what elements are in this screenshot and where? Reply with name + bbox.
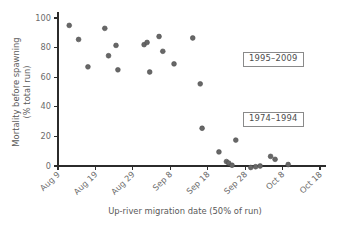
y-tick-label: 80 [41, 42, 51, 52]
data-point [230, 163, 235, 168]
data-point [190, 36, 195, 41]
data-point [147, 70, 152, 75]
x-axis-title: Up-river migration date (50% of run) [108, 206, 262, 216]
data-point [253, 164, 258, 169]
y-tick-label: 100 [35, 13, 51, 23]
y-tick-label: 20 [41, 131, 51, 141]
data-point [102, 26, 107, 31]
x-tick-label: Oct 8 [264, 169, 287, 191]
x-axis-ticks: Aug 9Aug 19Aug 29Sep 8Sep 18Sep 28Oct 8O… [38, 166, 324, 197]
annotation-label-recent-period: 1995–2009 [243, 52, 304, 67]
data-point [248, 165, 253, 170]
data-point [268, 154, 273, 159]
annotation-label-historic-period: 1974–1994 [243, 112, 304, 127]
data-point [217, 150, 222, 155]
x-tick-label: Aug 19 [71, 169, 99, 196]
data-point [198, 81, 203, 86]
data-point [145, 40, 150, 45]
data-point [286, 162, 291, 167]
x-tick-label: Sep 18 [184, 169, 211, 196]
y-tick-label: 40 [41, 101, 51, 111]
x-tick-label: Aug 29 [109, 169, 137, 196]
x-tick-label: Sep 8 [151, 169, 175, 192]
data-point [233, 138, 238, 143]
data-point [67, 23, 72, 28]
data-point [160, 49, 165, 54]
x-tick-label: Sep 28 [222, 169, 249, 196]
y-axis-title-line1: Mortality before spawning [11, 37, 21, 146]
y-axis-title-line2: (% total run) [22, 65, 32, 118]
data-point [114, 43, 119, 48]
data-point [86, 64, 91, 69]
data-point [273, 157, 278, 162]
y-axis-title: Mortality before spawning (% total run) [11, 37, 32, 146]
x-tick-label: Aug 9 [38, 169, 62, 193]
y-tick-label: 0 [46, 161, 51, 171]
data-point [76, 37, 81, 42]
y-axis-ticks: 020406080100 [35, 13, 58, 171]
x-tick-label: Oct 18 [297, 169, 324, 195]
data-point [200, 126, 205, 131]
data-point [115, 67, 120, 72]
data-point [106, 53, 111, 58]
y-tick-label: 60 [41, 72, 51, 82]
data-point [157, 34, 162, 39]
data-point-group [67, 23, 291, 170]
data-point [172, 61, 177, 66]
data-point [258, 164, 263, 169]
scatter-plot-figure: Mortality before spawning (% total run) … [0, 0, 340, 225]
